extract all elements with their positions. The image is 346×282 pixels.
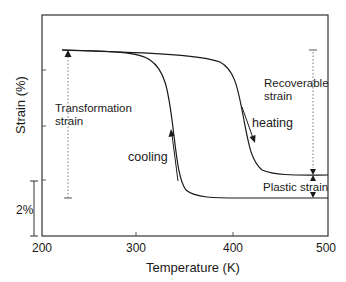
cooling-label: cooling [128,150,168,164]
x-tick-label-400: 400 [223,241,243,255]
x-tick-label-200: 200 [32,241,52,255]
heating-arrowhead-icon [250,135,256,143]
plastic-strain-label: Plastic strain [263,181,328,193]
transformation-strain-label: Transformation strain [55,102,135,127]
strain-temperature-chart: 200 300 400 500 Temperature (K) Strain (… [0,0,346,282]
x-ticks [136,232,233,236]
x-tick-label-300: 300 [126,241,146,255]
plastic-upper-arrow-down-icon [310,169,316,175]
x-axis-label: Temperature (K) [146,260,240,275]
x-tick-label-500: 500 [316,241,336,255]
recoverable-strain-label: Recoverable strain [264,77,332,102]
heating-label: heating [252,116,293,130]
transformation-arrowhead-icon [65,50,72,57]
y-axis-label: Strain (%) [13,76,28,134]
scale-bar-label: 2% [16,203,34,217]
